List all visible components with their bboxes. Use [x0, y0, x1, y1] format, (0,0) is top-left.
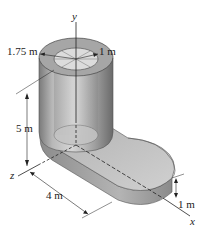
- y-axis-label: y: [72, 11, 77, 22]
- outer-radius-label: 1.75 m: [7, 46, 38, 57]
- length-label: 4 m: [46, 190, 63, 201]
- height-label: 5 m: [16, 123, 33, 134]
- z-axis-label: z: [10, 170, 14, 181]
- x-axis-label: x: [190, 216, 195, 227]
- inner-radius-label: 1 m: [99, 46, 116, 57]
- thickness-label: 1 m: [178, 199, 195, 210]
- figure-canvas: y z x 1.75 m 1 m 5 m 4 m 1 m: [0, 0, 202, 235]
- solid-drawing: [0, 0, 202, 235]
- z-axis: [18, 164, 40, 176]
